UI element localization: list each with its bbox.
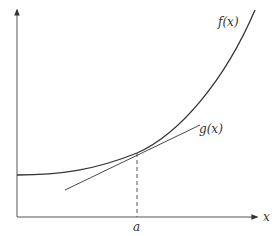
g-tangent-line <box>65 125 200 190</box>
f-label: f(x) <box>217 15 239 29</box>
a-tick-label: a <box>133 220 140 234</box>
x-axis-label: x <box>263 210 270 224</box>
g-label: g(x) <box>199 122 223 136</box>
f-curve <box>17 10 255 175</box>
tangent-diagram: f(x) g(x) a x <box>0 0 276 236</box>
